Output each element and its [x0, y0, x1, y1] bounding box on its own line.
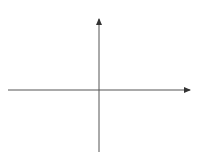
cube-root-graph [0, 0, 204, 158]
